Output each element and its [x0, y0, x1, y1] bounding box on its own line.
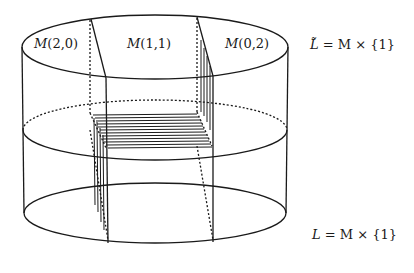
bottom-level-label: L = M × {1} [312, 227, 397, 242]
bottom-ellipse [24, 183, 286, 243]
label-args: (2,0) [47, 36, 78, 51]
region-label-m11: M(1,1) [127, 36, 171, 51]
region-label-m20: M(2,0) [34, 36, 78, 51]
top-label-lhs: L̃ [310, 37, 319, 52]
label-args: (0,2) [238, 36, 269, 51]
region-label-m02: M(0,2) [225, 36, 269, 51]
wall-front-left [106, 78, 108, 243]
top-divider-right [197, 17, 213, 76]
label-symbol: M [225, 36, 238, 51]
middle-ellipse-back [23, 100, 287, 130]
lower-back-right [197, 146, 213, 240]
top-level-label: L̃ = M × {1} [310, 37, 395, 52]
hatched-region [93, 114, 212, 148]
bottom-label-rhs: = M × {1} [325, 227, 397, 242]
vertical-hatching-left [94, 118, 104, 230]
label-symbol: M [127, 36, 140, 51]
top-label-rhs: = M × {1} [323, 37, 395, 52]
label-symbol: M [34, 36, 47, 51]
bottom-label-lhs: L [312, 227, 321, 242]
label-args: (1,1) [140, 36, 171, 51]
vertical-hatching-right [201, 40, 210, 130]
top-divider-left [91, 19, 106, 78]
